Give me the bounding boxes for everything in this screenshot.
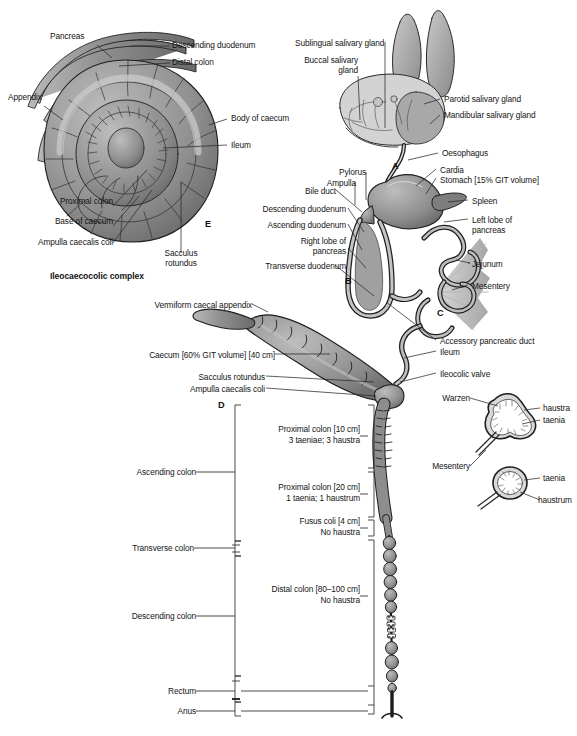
- label-fusus-coli-line1: Fusus coli [4 cm]: [238, 516, 360, 526]
- anatomy-figure: Pancreas Appendix Proximal colon Base of…: [0, 0, 577, 736]
- label-right-lobe-of-pancreas: Right lobe of pancreas: [250, 236, 346, 256]
- label-warzen: Warzen: [408, 393, 470, 403]
- label-taenia-lower: taenia: [543, 473, 565, 483]
- label-buccal-salivary-gland: Buccal salivary gland: [286, 55, 358, 75]
- panel-marker-e: E: [205, 219, 211, 229]
- distal-colon-artwork: [382, 536, 402, 718]
- label-descending-duodenum-e: Descending duodenum: [172, 40, 255, 50]
- label-ileum-e: Ileum: [231, 140, 251, 150]
- label-mesentery: Mesentery: [472, 281, 510, 291]
- label-jejunum: Jejunum: [472, 259, 503, 269]
- label-mesentery-inset: Mesentery: [404, 461, 470, 471]
- panel-marker-a: A: [392, 161, 399, 171]
- label-sacculus-rotundus: Sacculus rotundus: [150, 372, 265, 382]
- label-base-of-caecum: Base of caecum: [0, 216, 113, 226]
- colon-brackets: [194, 405, 374, 716]
- duodenum-artwork: [348, 220, 420, 316]
- proximal-colon-artwork: [375, 404, 392, 518]
- label-rectum: Rectum: [130, 686, 196, 696]
- label-transverse-colon: Transverse colon: [108, 543, 194, 553]
- label-pancreas: Pancreas: [50, 31, 84, 41]
- label-haustrum: haustrum: [538, 495, 572, 505]
- stomach-artwork: [360, 175, 443, 229]
- label-appendix: Appendix: [8, 92, 42, 102]
- panel-marker-d: D: [218, 400, 225, 410]
- label-sacculus-rotundus-e: Sacculus rotundus: [148, 248, 214, 268]
- label-anus: Anus: [130, 706, 196, 716]
- label-ileocolic-valve: Ileocolic valve: [440, 369, 490, 379]
- label-cardia: Cardia: [440, 165, 464, 175]
- label-body-of-caecum: Body of caecum: [231, 113, 289, 123]
- label-ampulla-caecalis-coli: Ampulla caecalis coli: [150, 384, 265, 394]
- panel-e-caption: Ileocaecocolic complex: [50, 271, 144, 281]
- label-transverse-duodenum: Transverse duodenum: [226, 261, 346, 271]
- panel-marker-c: C: [437, 308, 444, 318]
- cross-section-upper-artwork: [476, 394, 536, 455]
- label-oesophagus: Oesophagus: [442, 148, 488, 158]
- label-left-lobe-of-pancreas: Left lobe of pancreas: [472, 215, 512, 235]
- panel-marker-b: B: [345, 276, 352, 286]
- label-parotid-salivary-gland: Parotid salivary gland: [444, 94, 521, 104]
- label-descending-colon: Descending colon: [110, 611, 196, 621]
- label-descending-duodenum: Descending duodenum: [228, 204, 346, 214]
- head-artwork: [340, 11, 454, 148]
- cross-section-lower-artwork: [478, 467, 527, 509]
- label-mandibular-salivary-gland: Mandibular salivary gland: [444, 110, 536, 120]
- label-taenia-upper: taenia: [543, 415, 565, 425]
- label-vermiform-caecal-appendix: Vermiform caecal appendix: [130, 300, 252, 310]
- label-proximal-colon-20cm-line2: 1 taenia; 1 haustrum: [238, 493, 360, 503]
- label-proximal-colon-10cm-line1: Proximal colon [10 cm]: [238, 424, 360, 434]
- label-haustra: haustra: [543, 403, 570, 413]
- label-spleen: Spleen: [472, 196, 497, 206]
- label-sublingual-salivary-gland: Sublingual salivary gland: [295, 38, 384, 48]
- label-proximal-colon-10cm-line2: 3 taeniae; 3 haustra: [238, 435, 360, 445]
- label-bile-duct: Bile duct: [246, 186, 336, 196]
- label-stomach: Stomach [15% GIT volume]: [440, 175, 539, 185]
- label-fusus-coli-line2: No haustra: [238, 527, 360, 537]
- label-proximal-colon-20cm-line1: Proximal colon [20 cm]: [238, 482, 360, 492]
- label-ascending-colon: Ascending colon: [110, 467, 196, 477]
- label-ampulla-caecalis-coli-e: Ampulla caecalis coli: [0, 237, 113, 247]
- label-pylorus: Pylorus: [286, 167, 366, 177]
- label-accessory-pancreatic-duct: Accessory pancreatic duct: [440, 336, 534, 346]
- label-ascending-duodenum: Ascending duodenum: [228, 220, 346, 230]
- label-ileum: Ileum: [440, 347, 460, 357]
- label-distal-colon: Distal colon: [172, 57, 214, 67]
- label-distal-colon-line2: No haustra: [238, 595, 360, 605]
- label-proximal-colon-e: Proximal colon: [0, 196, 113, 206]
- label-caecum: Caecum [60% GIT volume] [40 cm]: [100, 350, 275, 360]
- label-distal-colon-line1: Distal colon [80–100 cm]: [238, 584, 360, 594]
